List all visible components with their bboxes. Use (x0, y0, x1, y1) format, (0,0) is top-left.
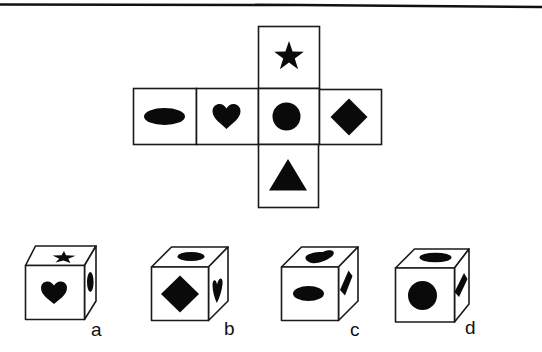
oval-icon (420, 253, 452, 263)
oval-icon (87, 272, 94, 292)
option-label-b[interactable]: b (224, 319, 235, 338)
option-label-c[interactable]: c (350, 320, 360, 339)
circle-icon (408, 281, 437, 310)
cube-net-diagram (0, 0, 542, 352)
option-label-a[interactable]: a (91, 320, 102, 339)
oval-icon (144, 108, 185, 125)
option-label-d[interactable]: d (465, 318, 476, 337)
cube-net (134, 27, 382, 208)
top-rule (0, 5, 542, 8)
oval-icon (293, 286, 324, 301)
option-cube-d[interactable] (396, 249, 470, 322)
circle-icon (273, 103, 301, 131)
option-cube-c[interactable] (282, 247, 359, 321)
oval-icon (178, 252, 205, 261)
option-cube-b[interactable] (152, 247, 229, 321)
option-cube-a[interactable] (26, 246, 97, 320)
